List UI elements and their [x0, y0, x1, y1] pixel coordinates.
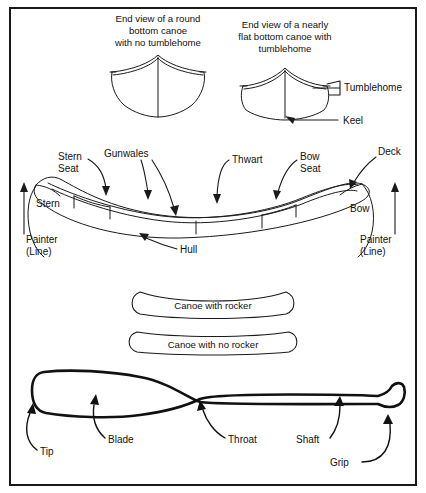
bow-seat-label-line1: Bow: [300, 151, 320, 162]
painter-right-label-line2: (Line): [360, 246, 386, 257]
thwart-label: Thwart: [232, 154, 263, 165]
keel-label: Keel: [343, 115, 363, 126]
round-bottom-caption-line3: with no tumblehome: [114, 37, 201, 48]
stern-seat-label-line2: Seat: [58, 163, 79, 174]
shaft-label: Shaft: [296, 434, 320, 445]
throat-label: Throat: [228, 434, 257, 445]
flat-bottom-caption-line3: tumblehome: [259, 43, 312, 54]
canoe-no-rocker-label: Canoe with no rocker: [168, 339, 259, 350]
round-bottom-caption-line1: End view of a round: [116, 13, 201, 24]
bow-seat-label-line2: Seat: [300, 163, 321, 174]
blade-label: Blade: [108, 434, 134, 445]
canoe-anatomy-diagram: End view of a round bottom canoe with no…: [0, 0, 426, 493]
tip-label: Tip: [40, 446, 54, 457]
stern-seat-label-line1: Stern: [58, 151, 82, 162]
flat-bottom-caption-line1: End view of a nearly: [242, 19, 329, 30]
stern-label: Stern: [36, 198, 60, 209]
painter-left-label-line1: Painter: [26, 234, 58, 245]
tumblehome-label: Tumblehome: [344, 82, 402, 93]
hull-label: Hull: [180, 244, 197, 255]
flat-bottom-caption-line2: flat bottom canoe with: [238, 31, 331, 42]
bow-label: Bow: [350, 203, 370, 214]
deck-label: Deck: [378, 146, 402, 157]
painter-right-label-line1: Painter: [360, 234, 392, 245]
grip-label: Grip: [330, 457, 349, 468]
round-bottom-caption-line2: bottom canoe: [129, 25, 187, 36]
gunwales-label: Gunwales: [104, 148, 148, 159]
canoe-with-rocker-label: Canoe with rocker: [174, 300, 252, 311]
painter-left-label-line2: (Line): [26, 246, 52, 257]
